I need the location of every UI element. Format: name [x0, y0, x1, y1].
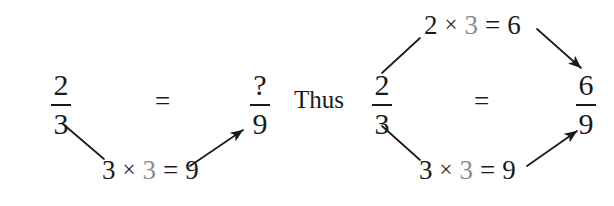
right-bottom-right-arrow	[527, 131, 577, 166]
figure-canvas: 2 3 = ? 9 3×3=9 Thus 2×3=6 2 3 = 6 9 3×3…	[0, 0, 614, 206]
right-bottom-equals: =	[480, 157, 495, 184]
right-top-right-arrow	[537, 29, 581, 68]
right-top-times-icon: ×	[445, 13, 458, 36]
right-top-operand-b: 3	[464, 12, 478, 39]
left-bottom-times-icon: ×	[123, 158, 136, 181]
left-bottom-operand-a: 3	[102, 157, 116, 184]
left-source-numerator: 2	[53, 70, 70, 100]
right-bottom-operand-b: 3	[459, 157, 473, 184]
right-equals-sign: =	[474, 88, 489, 115]
left-bottom-operand-b: 3	[142, 157, 156, 184]
left-target-fraction-bar	[250, 104, 270, 106]
left-bottom-result: 9	[185, 157, 199, 184]
right-top-result: 6	[507, 12, 521, 39]
right-top-equals: =	[485, 12, 500, 39]
left-source-denominator: 3	[53, 109, 70, 139]
thus-label: Thus	[294, 87, 344, 112]
right-bottom-operand-a: 3	[419, 157, 433, 184]
left-target-numerator: ?	[252, 70, 267, 100]
right-target-numerator: 6	[578, 70, 595, 100]
right-bottom-expression: 3×3=9	[419, 157, 516, 184]
left-equals-sign: =	[155, 88, 170, 115]
right-source-numerator: 2	[374, 70, 391, 100]
right-bottom-times-icon: ×	[440, 158, 453, 181]
left-source-fraction: 2 3	[51, 70, 71, 139]
left-target-fraction: ? 9	[250, 70, 270, 139]
left-source-fraction-bar	[51, 104, 71, 106]
right-target-fraction: 6 9	[576, 70, 596, 139]
left-bottom-expression: 3×3=9	[102, 157, 199, 184]
right-target-fraction-bar	[576, 104, 596, 106]
left-bottom-equals: =	[163, 157, 178, 184]
right-source-denominator: 3	[374, 109, 391, 139]
right-target-denominator: 9	[578, 109, 595, 139]
right-source-fraction-bar	[372, 104, 392, 106]
left-target-denominator: 9	[252, 109, 269, 139]
right-source-fraction: 2 3	[372, 70, 392, 139]
right-bottom-result: 9	[502, 157, 516, 184]
right-top-operand-a: 2	[424, 12, 438, 39]
right-top-expression: 2×3=6	[424, 12, 521, 39]
